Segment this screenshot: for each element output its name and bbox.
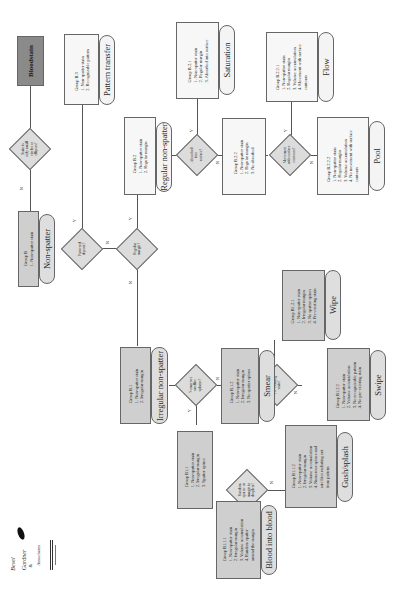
category-label: Pattern transfer bbox=[102, 44, 112, 96]
category-gush-splash: Gush/splash bbox=[337, 432, 353, 502]
group-item: 1. Non-spatter stain bbox=[340, 361, 346, 408]
connector bbox=[82, 100, 83, 230]
group-item: satellites radiating out bbox=[319, 445, 325, 488]
group-box-b22: Group B.2.2 1. Non-spatter stain 2. Regu… bbox=[222, 118, 266, 195]
group-item: 2. Volume accumulation bbox=[346, 361, 352, 408]
connector bbox=[30, 85, 31, 130]
group-item: 3. No spatter spines bbox=[306, 288, 312, 323]
branch-no-label: N bbox=[309, 161, 314, 164]
decision-text: droplets? bbox=[251, 483, 255, 498]
category-label: Irregular non-spatter bbox=[155, 350, 165, 420]
category-label: Saturation bbox=[222, 43, 232, 78]
category-non-spatter: Non-spatter bbox=[39, 214, 55, 284]
group-item: 2. Irregular margin bbox=[240, 369, 246, 404]
category-smear: Smear bbox=[259, 350, 275, 422]
category-label: Swipe bbox=[373, 374, 383, 395]
group-title: Group B bbox=[23, 232, 29, 267]
decision-text: deposit? bbox=[82, 242, 86, 256]
logo-text: Associates bbox=[36, 545, 41, 566]
group-item: 3. Spatter spines bbox=[201, 453, 207, 488]
branch-no-label: N bbox=[215, 161, 220, 164]
logo-rule bbox=[52, 540, 53, 570]
logo-bevel-gardner-associates: Bevel Gardner & Associates bbox=[14, 525, 62, 585]
group-item: 3. No spatter spines bbox=[246, 369, 252, 404]
group-box-b3: Group B.3 1. Non-spatter stain 2. Recogn… bbox=[64, 34, 99, 105]
group-item: 1. Non-spatter stain bbox=[227, 519, 233, 562]
group-item: 3. No absorbed bbox=[250, 139, 256, 174]
connector bbox=[137, 192, 138, 228]
branch-no-label: N bbox=[293, 391, 298, 394]
branch-yes-label: Y bbox=[128, 217, 133, 220]
category-label: Flow bbox=[321, 58, 331, 75]
connector bbox=[197, 98, 198, 138]
group-item: 2. Irregular margin bbox=[233, 519, 239, 562]
group-item: 2. Regular margin bbox=[244, 139, 250, 174]
category-label: Regular non-spatter bbox=[159, 123, 169, 190]
group-item: from pattern bbox=[325, 445, 331, 488]
category-label: Wipe bbox=[328, 296, 338, 314]
group-title: Group B1.2.2 bbox=[335, 361, 341, 408]
group-box-b2: Group B.2 1. Non-spatter stain 2. Regula… bbox=[124, 117, 156, 195]
decision-text: margin? bbox=[137, 243, 141, 255]
connector bbox=[137, 266, 138, 346]
logo-rule bbox=[50, 540, 51, 570]
category-label: Gush/splash bbox=[340, 446, 350, 488]
group-box-b121: Group B1.2.1 1. Non-spatter stain 2. Irr… bbox=[282, 270, 325, 341]
group-title: Group B1.1.1 bbox=[222, 519, 228, 562]
category-flow: Flow bbox=[318, 32, 334, 102]
group-item: 4. No pre-existing stain bbox=[357, 361, 363, 408]
group-item: 1. Non-spatter stain bbox=[192, 39, 198, 82]
group-item: 2. Regular margin bbox=[143, 139, 149, 174]
category-swipe: Swipe bbox=[370, 350, 386, 420]
group-box-b11: Group B1.1 1. Non-spatter stain 2. Irreg… bbox=[177, 431, 213, 509]
branch-yes-label: Y bbox=[189, 129, 194, 132]
group-item: 1. Non-spatter stain bbox=[79, 49, 85, 91]
branch-no-label: N bbox=[269, 481, 274, 484]
category-irregular-non-spatter: Irregular non-spatter bbox=[151, 347, 168, 424]
branch-no-label: N bbox=[128, 281, 133, 284]
group-box-b221: Group B.2.2.1 1. Non-spatter stain 2. Re… bbox=[266, 32, 318, 102]
group-item: 2. Irregular margin bbox=[301, 288, 307, 323]
group-item: 2. Recognizable pattern bbox=[84, 49, 90, 91]
group-item: 4. Random spatter bbox=[244, 519, 250, 562]
group-title: Group B.3 bbox=[73, 49, 79, 91]
category-pattern-transfer: Pattern transfer bbox=[99, 35, 115, 105]
group-item: 3. Absorbed into surface bbox=[203, 39, 209, 82]
category-pool: Pool bbox=[369, 121, 385, 191]
connector bbox=[291, 100, 292, 138]
logo-text: & bbox=[28, 564, 33, 568]
group-item: 3. No recognizable pattern bbox=[351, 361, 357, 408]
branch-no-label: N bbox=[19, 187, 24, 190]
category-saturation: Saturation bbox=[219, 25, 235, 95]
branch-yes-label: Y bbox=[283, 129, 288, 132]
branch-yes-label: Y bbox=[72, 219, 77, 222]
group-item: around the margin bbox=[250, 519, 256, 562]
branch-no-label: N bbox=[215, 377, 220, 380]
root-label: Bloodstain bbox=[27, 45, 35, 77]
group-box-b111: Group B1.1.1 1. Non-spatter stain 2. Irr… bbox=[216, 501, 261, 579]
logo-text: Bevel bbox=[10, 557, 16, 570]
category-wipe: Wipe bbox=[325, 270, 341, 340]
group-box-b1: Group B.1 1. Non-spatter stain 2. Irregu… bbox=[120, 347, 151, 424]
branch-yes-label: Y bbox=[187, 409, 192, 412]
group-box-b: Group B 1. Non-spatter stain bbox=[18, 211, 39, 287]
logo-blood-drop-icon bbox=[16, 526, 26, 540]
logo-rule bbox=[55, 545, 56, 565]
category-regular-non-spatter: Regular non-spatter bbox=[156, 122, 172, 192]
branch-no-label: N bbox=[105, 241, 110, 244]
group-item: contours bbox=[303, 44, 309, 90]
group-box-b12: Group B.1.2 1. Non-spatter stain 2. Irre… bbox=[221, 348, 259, 424]
category-label: Blood into blood bbox=[264, 511, 274, 569]
group-item: 2. Irregular margin bbox=[195, 453, 201, 488]
decision-text: ellipses? bbox=[34, 141, 38, 157]
group-item: 1. Non-spatter stain bbox=[29, 232, 35, 267]
group-title: Group B.2.1 bbox=[186, 39, 192, 82]
group-item: 2. Regular margin bbox=[198, 39, 204, 82]
group-item: 1. Non-spatter stain bbox=[295, 288, 301, 323]
decision-text: splatter? bbox=[198, 377, 202, 393]
group-title: Group B.1 bbox=[127, 368, 133, 403]
category-label: Non-spatter bbox=[42, 229, 52, 269]
group-item: 4. Pre-existing stain bbox=[312, 288, 318, 323]
decision-text: stain? bbox=[277, 376, 281, 394]
category-label: Smear bbox=[262, 375, 272, 397]
